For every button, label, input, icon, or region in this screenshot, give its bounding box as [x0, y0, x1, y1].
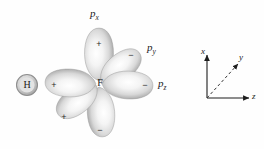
lobe-sign-upper-right: − [126, 51, 136, 60]
atom-label-fluorine: F [94, 78, 106, 88]
orbital-label-pz-sub: z [164, 83, 167, 92]
lobe-sign-lower-left: + [59, 113, 69, 122]
lobe-sign-up: + [94, 40, 104, 49]
axis-label-z: z [252, 92, 256, 101]
orbital-diagram-figure: H F + − − − + + px py pz x y z [0, 0, 264, 149]
lobe-sign-right: − [140, 81, 150, 90]
orbital-label-px: px [90, 8, 99, 22]
diagram-canvas [0, 0, 264, 149]
axis-label-y: y [239, 53, 243, 62]
axis-label-x: x [201, 47, 205, 56]
axis-y-line [207, 64, 238, 98]
atom-label-hydrogen: H [21, 80, 33, 90]
orbital-label-px-sub: x [96, 13, 99, 22]
orbital-label-pz: pz [158, 78, 166, 92]
lobe-sign-down: − [95, 126, 105, 135]
orbital-label-py: py [147, 42, 156, 56]
lobe-sign-left: + [49, 81, 59, 90]
orbital-label-py-sub: y [153, 47, 156, 56]
